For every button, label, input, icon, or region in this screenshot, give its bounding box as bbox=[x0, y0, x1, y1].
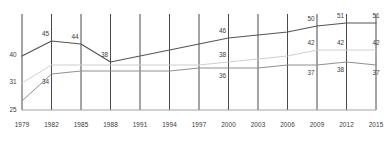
x-tick-2009: 2009 bbox=[310, 122, 325, 128]
vertical-gridlines bbox=[22, 14, 376, 110]
x-tick-1979: 1979 bbox=[15, 122, 30, 128]
point-label-series-dark-2009: 50 bbox=[307, 16, 314, 22]
x-tick-1991: 1991 bbox=[133, 122, 148, 128]
point-label-series-dark-2012: 51 bbox=[337, 13, 344, 19]
point-label-series-dark-1982: 45 bbox=[42, 31, 49, 37]
point-label-series-mid-1979: 25 bbox=[9, 107, 16, 113]
x-tick-1985: 1985 bbox=[74, 122, 89, 128]
point-label-series-mid-2012: 38 bbox=[337, 67, 344, 73]
point-label-series-dark-1979: 40 bbox=[9, 52, 16, 58]
x-tick-1994: 1994 bbox=[162, 122, 177, 128]
point-label-series-mid-2015: 37 bbox=[372, 70, 379, 76]
point-label-series-light-1979: 31 bbox=[9, 79, 16, 85]
point-label-series-dark-2015: 51 bbox=[372, 13, 379, 19]
point-label-series-light-2009: 42 bbox=[307, 40, 314, 46]
point-label-series-mid-1982: 34 bbox=[42, 79, 49, 85]
x-tick-1988: 1988 bbox=[103, 122, 118, 128]
x-tick-1982: 1982 bbox=[44, 122, 59, 128]
point-label-series-light-2000: 38 bbox=[219, 52, 226, 58]
x-tick-2000: 2000 bbox=[221, 122, 236, 128]
x-tick-2003: 2003 bbox=[251, 122, 266, 128]
point-label-series-light-2012: 42 bbox=[337, 40, 344, 46]
point-label-series-light-2015: 42 bbox=[372, 40, 379, 46]
x-tick-1997: 1997 bbox=[192, 122, 207, 128]
point-label-series-dark-2000: 46 bbox=[219, 28, 226, 34]
x-tick-2006: 2006 bbox=[280, 122, 295, 128]
x-tick-2015: 2015 bbox=[369, 122, 384, 128]
point-label-series-mid-2009: 37 bbox=[307, 70, 314, 76]
point-label-series-dark-1988: 38 bbox=[101, 52, 108, 58]
point-label-series-dark-1985: 44 bbox=[71, 34, 78, 40]
point-label-series-mid-2000: 36 bbox=[219, 73, 226, 79]
line-chart: 1979198219851988199119941997200020032006… bbox=[0, 0, 384, 143]
x-tick-2012: 2012 bbox=[339, 122, 354, 128]
